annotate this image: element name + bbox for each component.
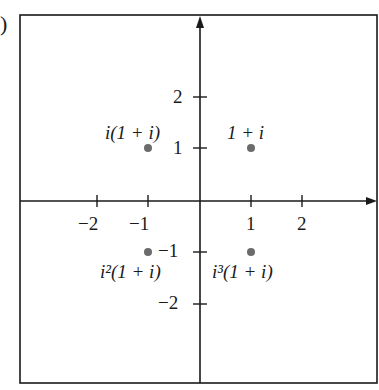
point-label-i3-times: i³(1 + i) bbox=[212, 262, 273, 282]
x-tick-label-neg1: −1 bbox=[129, 214, 149, 234]
point-1-plus-i bbox=[247, 144, 255, 152]
point-i-times bbox=[144, 144, 152, 152]
x-axis-arrow-icon bbox=[366, 197, 377, 205]
point-i3-times bbox=[247, 248, 255, 256]
y-tick-label-2: 2 bbox=[173, 87, 183, 107]
y-tick-label-1: 1 bbox=[173, 138, 183, 158]
x-tick-label-2: 2 bbox=[297, 214, 307, 234]
complex-plane-diagram bbox=[0, 0, 379, 390]
x-tick-label-neg2: −2 bbox=[78, 214, 98, 234]
point-label-i2-times: i²(1 + i) bbox=[100, 262, 161, 282]
point-i2-times bbox=[144, 248, 152, 256]
x-tick-label-1: 1 bbox=[246, 214, 256, 234]
y-tick-label-neg1: −1 bbox=[158, 241, 178, 261]
y-tick-label-neg2: −2 bbox=[158, 293, 178, 313]
point-label-1-plus-i: 1 + i bbox=[227, 123, 264, 143]
y-axis-arrow-icon bbox=[196, 16, 204, 28]
point-label-i-times: i(1 + i) bbox=[105, 123, 160, 143]
frame-border bbox=[20, 15, 377, 383]
